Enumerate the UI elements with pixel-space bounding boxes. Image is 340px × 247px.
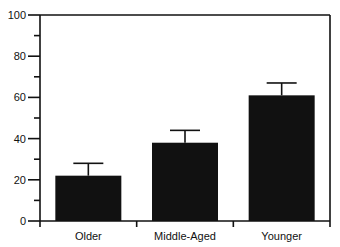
y-tick-label: 60	[14, 91, 26, 103]
x-tick-label: Younger	[261, 230, 302, 242]
bar-chart: 020406080100 OlderMiddle-AgedYounger	[0, 0, 340, 247]
x-axis	[40, 221, 330, 227]
bars: OlderMiddle-AgedYounger	[55, 83, 314, 242]
x-tick-label: Middle-Aged	[154, 230, 216, 242]
y-axis: 020406080100	[8, 9, 40, 227]
y-tick-label: 80	[14, 50, 26, 62]
bar	[55, 176, 121, 221]
bar-group: Older	[55, 163, 121, 242]
bar-group: Middle-Aged	[152, 130, 218, 242]
y-tick-label: 20	[14, 174, 26, 186]
bar-group: Younger	[249, 83, 315, 242]
x-tick-label: Older	[75, 230, 102, 242]
y-tick-label: 0	[20, 215, 26, 227]
bar	[152, 143, 218, 221]
y-tick-label: 100	[8, 9, 26, 21]
y-tick-label: 40	[14, 133, 26, 145]
bar	[249, 95, 315, 221]
